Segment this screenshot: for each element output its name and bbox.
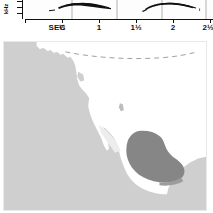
y-axis-line <box>22 0 23 19</box>
x-axis-labels: SEC ½ 1 1½ 2 2½ <box>0 22 213 36</box>
range-map-graphic <box>4 42 206 210</box>
x-tick-label-two: 2 <box>162 22 184 34</box>
song-spectrogram-panel: kHz <box>0 0 213 37</box>
range-map-panel <box>0 40 213 213</box>
spectrogram-y-axis-label: kHz <box>0 0 13 20</box>
x-tick-label-one: 1 <box>88 22 110 34</box>
spectrogram-plot-area <box>25 0 213 20</box>
field-guide-figure: kHz <box>0 0 213 213</box>
x-tick-label-one-half: 1½ <box>123 22 149 34</box>
x-tick-label-two-half: 2½ <box>195 22 213 34</box>
x-tick-label-half: ½ <box>51 22 73 34</box>
spectrogram-traces <box>25 0 213 19</box>
map-frame <box>3 41 207 211</box>
